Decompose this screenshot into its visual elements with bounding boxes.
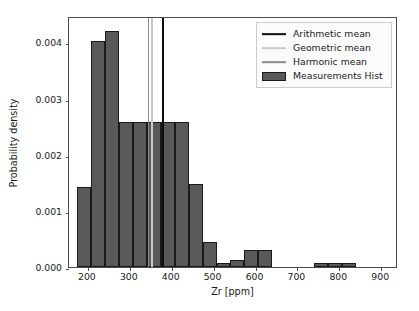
y-tick-mark [66, 157, 70, 158]
y-tick-label: 0.002 [35, 151, 62, 160]
legend-line-swatch [261, 29, 287, 40]
x-tick-label: 200 [78, 272, 96, 281]
legend-label: Geometric mean [293, 43, 371, 52]
vline-geometric-mean [151, 18, 153, 267]
legend-item[interactable]: Harmonic mean [261, 55, 386, 69]
x-tick-mark [172, 267, 173, 271]
vline-harmonic-mean [148, 18, 150, 267]
legend-item[interactable]: Geometric mean [261, 41, 386, 55]
histogram-bar [314, 263, 328, 267]
y-tick-label: 0.001 [35, 207, 62, 216]
histogram-bar [244, 250, 258, 267]
x-tick-mark [130, 267, 131, 271]
y-tick-mark [66, 269, 70, 270]
figure-canvas: Probability density 0.0000.0010.0020.003… [0, 0, 419, 311]
y-tick-mark [66, 44, 70, 45]
legend-label: Arithmetic mean [293, 29, 371, 38]
x-tick-label: 400 [162, 272, 180, 281]
histogram-bar [133, 122, 147, 267]
x-tick-label: 600 [246, 272, 264, 281]
x-axis-label: Zr [ppm] [68, 286, 397, 297]
y-tick-mark [66, 213, 70, 214]
vline-arithmetic-mean [162, 18, 164, 267]
histogram-bar [119, 122, 133, 267]
histogram-bar [258, 250, 272, 267]
y-tick-mark [66, 101, 70, 102]
legend-line-swatch [261, 43, 287, 54]
y-tick-label: 0.000 [35, 263, 62, 272]
x-tick-mark [297, 267, 298, 271]
histogram-bar [175, 122, 189, 267]
x-tick-mark [381, 267, 382, 271]
legend-line-swatch [261, 57, 287, 68]
y-tick-label: 0.004 [35, 39, 62, 48]
x-tick-mark [256, 267, 257, 271]
legend-item[interactable]: Measurements Hist [261, 69, 386, 83]
histogram-bar [105, 31, 119, 267]
y-axis-tick-labels: 0.0000.0010.0020.0030.004 [0, 17, 62, 268]
x-tick-label: 700 [288, 272, 306, 281]
x-tick-label: 300 [120, 272, 138, 281]
histogram-bar [342, 263, 356, 267]
legend-label: Measurements Hist [293, 71, 383, 80]
x-tick-mark [214, 267, 215, 271]
legend-item[interactable]: Arithmetic mean [261, 27, 386, 41]
histogram-bar [91, 41, 105, 267]
x-tick-label: 900 [371, 272, 389, 281]
histogram-bar [189, 184, 203, 267]
histogram-bar [77, 187, 91, 267]
histogram-bar [217, 263, 231, 267]
chart-legend: Arithmetic meanGeometric meanHarmonic me… [256, 22, 392, 88]
x-tick-mark [88, 267, 89, 271]
x-tick-mark [339, 267, 340, 271]
histogram-bar [230, 260, 244, 267]
legend-label: Harmonic mean [293, 57, 367, 66]
y-tick-label: 0.003 [35, 95, 62, 104]
x-tick-label: 800 [329, 272, 347, 281]
x-axis-tick-labels: 200300400500600700800900 [68, 272, 397, 286]
x-tick-label: 500 [204, 272, 222, 281]
histogram-bar [203, 242, 217, 267]
legend-patch-swatch [261, 71, 287, 82]
